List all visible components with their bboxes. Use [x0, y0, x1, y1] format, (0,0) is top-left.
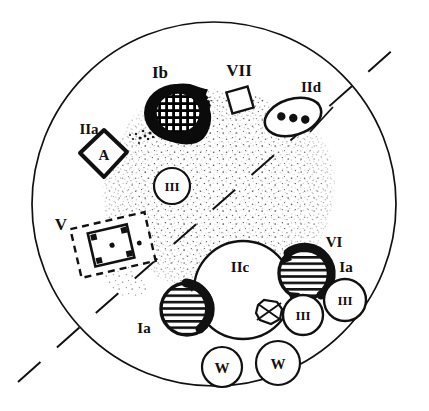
label-VII: VII — [226, 61, 252, 80]
W-left-label: W — [215, 360, 230, 376]
label-Ia-right: Ia — [339, 259, 353, 275]
label-IIa: IIa — [79, 121, 99, 137]
III-center-label: III — [164, 179, 179, 194]
label-VI: VI — [326, 234, 343, 250]
III-circle-center: III — [154, 168, 190, 204]
label-Ib: Ib — [152, 63, 168, 82]
Ia-striped-circle-left — [161, 281, 213, 335]
III-circle-right: III — [324, 279, 366, 321]
III-lower-label: III — [295, 308, 310, 323]
X-marked-polygon — [256, 300, 282, 324]
W-right-label: W — [271, 356, 286, 372]
label-IId: IId — [301, 79, 322, 95]
III-right-label: III — [337, 293, 352, 308]
diagram-figure: A III IIc — [0, 0, 429, 411]
VII-square — [226, 86, 253, 113]
V-inner-square — [88, 224, 135, 266]
label-V: V — [55, 215, 68, 234]
cell-schematic-svg: A III IIc — [0, 0, 429, 411]
W-circle-left: W — [202, 347, 242, 387]
label-Ia-left: Ia — [137, 320, 151, 336]
W-circle-right: W — [256, 341, 300, 385]
III-circle-lower: III — [283, 295, 323, 335]
IIa-inner-label: A — [99, 147, 110, 163]
